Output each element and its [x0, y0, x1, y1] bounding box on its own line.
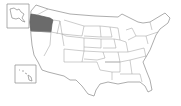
us-map: [0, 0, 181, 106]
hawaii-inset: [15, 65, 36, 83]
